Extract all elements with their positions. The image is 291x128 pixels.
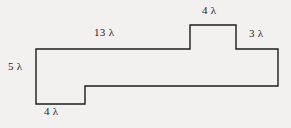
dimension-label-right-height: 3 λ (249, 27, 263, 40)
dimension-label-top-long: 13 λ (94, 26, 114, 39)
polygon-outline (36, 25, 278, 104)
dimension-label-bump-top: 4 λ (202, 4, 216, 17)
dimension-label-bottom-left: 4 λ (44, 105, 58, 118)
dimension-label-left-height: 5 λ (8, 60, 22, 73)
figure-container: 5 λ 13 λ 4 λ 3 λ 4 λ (0, 0, 291, 128)
